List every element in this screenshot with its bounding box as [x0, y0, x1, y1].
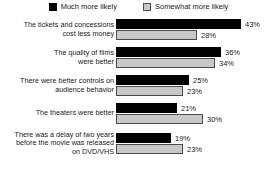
bar-value-label: 25%	[193, 76, 208, 85]
chart-legend: Much more likely Somewhat more likely	[0, 2, 277, 11]
bar-much-more-likely	[116, 19, 241, 29]
bar-row: 21%	[116, 103, 277, 113]
legend-swatch-icon	[143, 3, 151, 11]
bar-row: 25%	[116, 75, 277, 85]
bar-row: 23%	[116, 144, 277, 154]
bar-somewhat-more-likely	[116, 86, 183, 96]
bar-somewhat-more-likely	[116, 114, 203, 124]
bar-value-label: 43%	[245, 20, 260, 29]
bar-value-label: 19%	[175, 134, 190, 143]
bar-pair: 36% 34%	[116, 47, 277, 68]
legend-item-much-more-likely: Much more likely	[49, 2, 117, 11]
bar-value-label: 23%	[187, 87, 202, 96]
bar-value-label: 28%	[201, 31, 216, 40]
legend-item-label: Somewhat more likely	[155, 2, 228, 11]
bar-group: The quality of films were better 36% 34%	[0, 47, 277, 68]
bar-somewhat-more-likely	[116, 30, 197, 40]
bar-row: 36%	[116, 47, 277, 57]
bar-value-label: 23%	[187, 145, 202, 154]
bar-value-label: 30%	[207, 115, 222, 124]
plot-area: The tickets and concessions cost less mo…	[0, 19, 277, 170]
bar-pair: 19% 23%	[116, 133, 277, 154]
legend-item-somewhat-more-likely: Somewhat more likely	[143, 2, 228, 11]
bar-row: 28%	[116, 30, 277, 40]
bar-chart: Much more likely Somewhat more likely Th…	[0, 0, 277, 170]
bar-pair: 43% 28%	[116, 19, 277, 40]
legend-item-label: Much more likely	[61, 2, 117, 11]
category-label: There were better controls on audience b…	[0, 77, 116, 94]
category-label: The quality of films were better	[0, 49, 116, 66]
bar-much-more-likely	[116, 103, 177, 113]
bar-row: 43%	[116, 19, 277, 29]
bar-value-label: 34%	[219, 59, 234, 68]
bar-row: 23%	[116, 86, 277, 96]
bar-group: There were better controls on audience b…	[0, 75, 277, 96]
bar-group: The tickets and concessions cost less mo…	[0, 19, 277, 40]
category-label: The theaters were better	[0, 109, 116, 117]
category-label: The tickets and concessions cost less mo…	[0, 21, 116, 38]
bar-value-label: 21%	[181, 104, 196, 113]
legend-swatch-icon	[49, 3, 57, 11]
bar-much-more-likely	[116, 133, 171, 143]
bar-value-label: 36%	[225, 48, 240, 57]
bar-pair: 25% 23%	[116, 75, 277, 96]
bar-somewhat-more-likely	[116, 58, 215, 68]
bar-group: There was a delay of two years before th…	[0, 131, 277, 156]
bar-much-more-likely	[116, 47, 221, 57]
bar-much-more-likely	[116, 75, 189, 85]
bar-somewhat-more-likely	[116, 144, 183, 154]
bar-row: 19%	[116, 133, 277, 143]
bar-group: The theaters were better 21% 30%	[0, 103, 277, 124]
bar-row: 30%	[116, 114, 277, 124]
bar-pair: 21% 30%	[116, 103, 277, 124]
bar-row: 34%	[116, 58, 277, 68]
category-label: There was a delay of two years before th…	[0, 131, 116, 156]
